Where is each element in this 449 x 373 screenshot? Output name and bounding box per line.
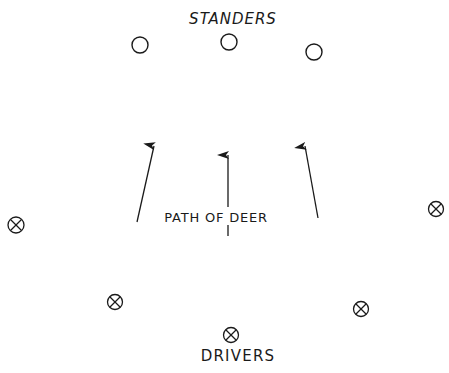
arrow-up-right-icon [305, 146, 318, 218]
deer-drive-diagram: STANDERS PATH OF DEER [0, 0, 449, 373]
driver-circled-x-icon [8, 217, 24, 233]
driver-circled-x-icon [354, 302, 369, 317]
drivers-label: DRIVERS [201, 347, 275, 365]
stander-circle-icon [132, 37, 148, 53]
stander-circle-icon [306, 44, 322, 60]
driver-circled-x-icon [108, 295, 123, 310]
standers-group [132, 34, 322, 60]
arrow-up-left-icon [137, 146, 154, 222]
stander-circle-icon [221, 34, 237, 50]
standers-label: STANDERS [189, 10, 277, 28]
driver-circled-x-icon [429, 202, 444, 217]
driver-circled-x-icon [224, 328, 239, 343]
path-of-deer-label: PATH OF DEER [164, 210, 268, 225]
